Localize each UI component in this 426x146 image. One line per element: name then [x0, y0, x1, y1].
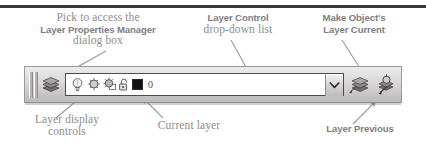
grip-bar [29, 72, 33, 98]
toolbar-drag-grip[interactable] [27, 70, 38, 100]
layers-toolbar: 0 [24, 66, 402, 103]
annotation-make-objects-layer-current: Make Object's Layer Current [294, 12, 414, 35]
annotation-line: controls [8, 126, 126, 138]
annotation-line: Layer Previous [300, 123, 420, 135]
annotation-layer-display-controls: Layer display controls [8, 114, 126, 137]
layer-control-dropdown[interactable]: 0 [65, 73, 344, 96]
annotation-line: Layer display [8, 114, 126, 126]
annotation-line: Make Object's [294, 12, 414, 24]
padlock-open-icon[interactable] [118, 76, 131, 93]
annotation-line: Layer Control [178, 12, 298, 24]
layer-control-dropdown-arrow[interactable] [325, 74, 343, 96]
layers-stack-icon [40, 75, 62, 95]
annotation-line: Current layer [134, 120, 244, 132]
sun-icon[interactable] [86, 76, 101, 93]
annotation-layer-previous: Layer Previous [300, 123, 420, 135]
sun-rect-icon[interactable] [102, 76, 117, 93]
layer-properties-manager-button[interactable] [38, 71, 64, 98]
figure-canvas: Pick to access the Layer Properties Mana… [0, 0, 426, 146]
make-objects-layer-current-button[interactable] [346, 71, 372, 98]
current-layer-name: 0 [144, 79, 325, 90]
annotation-line: Layer Current [294, 24, 414, 36]
layers-stack-arrow-icon [348, 74, 371, 95]
layer-color-swatch[interactable] [132, 79, 143, 90]
layer-display-controls [66, 76, 131, 93]
layer-previous-button[interactable] [372, 71, 398, 98]
annotation-line: dialog box [18, 35, 178, 47]
top-horizontal-rule [0, 5, 426, 8]
lightbulb-icon[interactable] [70, 76, 85, 93]
layers-toolbar-right-group [346, 71, 401, 98]
layers-previous-icon [374, 74, 397, 95]
annotation-layer-control: Layer Control drop-down list [178, 12, 298, 35]
annotation-line: Pick to access the [18, 12, 178, 24]
annotation-layer-properties-manager: Pick to access the Layer Properties Mana… [18, 12, 178, 47]
chevron-down-icon [329, 81, 340, 89]
annotation-line: drop-down list [178, 24, 298, 36]
annotation-current-layer: Current layer [134, 120, 244, 132]
